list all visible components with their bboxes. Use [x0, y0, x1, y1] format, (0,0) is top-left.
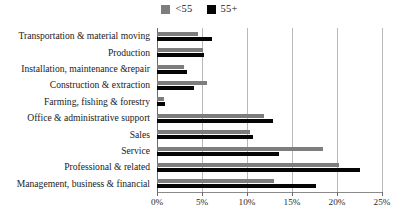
category-label: Sales: [0, 126, 153, 142]
bar-over55: [157, 102, 165, 106]
legend-label-over55: 55+: [221, 4, 238, 15]
tick-label: 5%: [196, 197, 208, 207]
bar-over55: [157, 53, 204, 57]
bar-row: [157, 77, 382, 93]
category-label: Office & administrative support: [0, 110, 153, 126]
bar-over55: [157, 135, 253, 139]
tick-label: 10%: [239, 197, 256, 207]
bar-under55: [157, 114, 264, 118]
bar-row: [157, 159, 382, 175]
bar-under55: [157, 32, 198, 36]
bar-over55: [157, 70, 187, 74]
bar-under55: [157, 81, 207, 85]
category-label: Production: [0, 44, 153, 60]
category-label: Management, business & financial: [0, 176, 153, 192]
bar-under55: [157, 179, 274, 183]
bar-row: [157, 126, 382, 142]
bar-under55: [157, 65, 184, 69]
bar-rows: [157, 28, 382, 192]
bar-row: [157, 143, 382, 159]
category-label: Service: [0, 143, 153, 159]
tick-mark: [202, 192, 203, 196]
bar-under55: [157, 147, 323, 151]
bar-over55: [157, 152, 279, 156]
tick-mark: [337, 192, 338, 196]
bar-under55: [157, 130, 250, 134]
legend-entry-over55: 55+: [207, 4, 238, 15]
bar-under55: [157, 97, 164, 101]
category-label: Construction & extraction: [0, 77, 153, 93]
bar-chart: <55 55+ Transportation & material moving…: [0, 0, 399, 215]
bar-row: [157, 176, 382, 192]
tick-label: 15%: [284, 197, 301, 207]
tick-label: 20%: [329, 197, 346, 207]
chart-legend: <55 55+: [0, 4, 399, 15]
bar-over55: [157, 86, 194, 90]
category-label: Farming, fishing & forestry: [0, 94, 153, 110]
tick-label: 0%: [151, 197, 163, 207]
legend-label-under55: <55: [175, 4, 192, 15]
bar-row: [157, 44, 382, 60]
tick-mark: [247, 192, 248, 196]
category-label: Transportation & material moving: [0, 28, 153, 44]
tick-mark: [157, 192, 158, 196]
legend-swatch-over55-icon: [207, 5, 216, 14]
tick-label: 25%: [374, 197, 391, 207]
bar-under55: [157, 163, 339, 167]
legend-entry-under55: <55: [161, 4, 192, 15]
bar-row: [157, 94, 382, 110]
bar-row: [157, 61, 382, 77]
category-label: Professional & related: [0, 159, 153, 175]
bar-over55: [157, 119, 273, 123]
tick-mark: [292, 192, 293, 196]
gridline: [382, 28, 383, 192]
bar-under55: [157, 48, 203, 52]
legend-swatch-under55-icon: [161, 5, 170, 14]
category-axis-labels: Transportation & material movingProducti…: [0, 28, 153, 192]
category-label: Installation, maintenance &repair: [0, 61, 153, 77]
bar-over55: [157, 184, 316, 188]
value-axis-ticks: 0%5%10%15%20%25%: [157, 192, 382, 212]
bar-row: [157, 110, 382, 126]
plot-area: [157, 28, 382, 192]
bar-over55: [157, 168, 360, 172]
bar-row: [157, 28, 382, 44]
tick-mark: [382, 192, 383, 196]
bar-over55: [157, 37, 212, 41]
